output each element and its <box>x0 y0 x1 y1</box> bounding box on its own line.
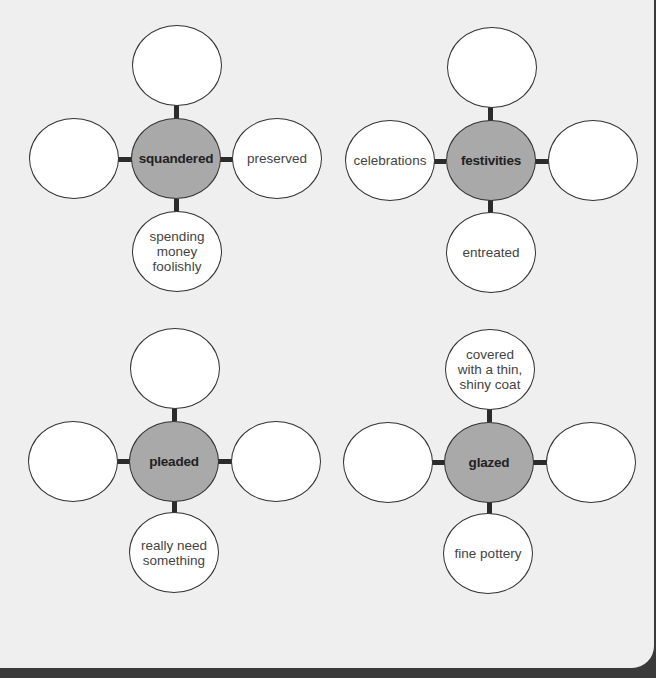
node-center: pleaded <box>129 421 219 502</box>
node-left[interactable] <box>343 422 433 503</box>
node-bottom[interactable]: fine pottery <box>443 513 533 594</box>
node-bottom[interactable]: really need something <box>129 512 219 593</box>
node-right[interactable] <box>546 422 636 503</box>
node-right[interactable] <box>231 421 321 502</box>
node-top[interactable]: covered with a thin, shiny coat <box>445 329 535 410</box>
connector-top <box>172 407 177 421</box>
connector-right <box>218 459 232 464</box>
node-center: festivities <box>446 120 536 201</box>
connector-right <box>533 460 547 465</box>
node-left[interactable] <box>29 118 119 199</box>
connector-left <box>118 157 132 162</box>
node-bottom[interactable]: entreated <box>446 212 536 293</box>
node-left[interactable]: celebrations <box>345 120 435 201</box>
node-center: glazed <box>444 422 534 503</box>
node-top[interactable] <box>132 25 222 106</box>
connector-right <box>535 159 549 164</box>
node-left[interactable] <box>28 421 118 502</box>
connector-top <box>488 107 493 121</box>
worksheet-page: squandered preserved spending money fool… <box>0 0 654 668</box>
node-bottom[interactable]: spending money foolishly <box>132 211 222 292</box>
node-right[interactable] <box>548 120 638 201</box>
node-top[interactable] <box>447 27 537 108</box>
connector-top <box>174 105 179 119</box>
connector-left <box>431 460 445 465</box>
node-right[interactable]: preserved <box>232 118 322 199</box>
node-center: squandered <box>131 118 221 199</box>
node-top[interactable] <box>130 328 220 409</box>
connector-top <box>487 408 492 422</box>
